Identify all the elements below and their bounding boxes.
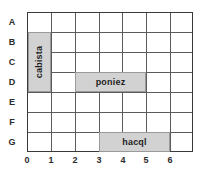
column-label-0: 0 <box>15 155 39 165</box>
region-cabista[interactable]: cabista <box>28 32 51 92</box>
grid-figure: A B C D E F G 0 1 2 3 4 5 6 cabista poni… <box>0 0 207 174</box>
region-poniez[interactable]: poniez <box>75 72 146 92</box>
row-label-g: G <box>0 137 24 147</box>
grid-line-vertical-1 <box>51 13 52 151</box>
row-label-e: E <box>0 97 24 107</box>
row-label-a: A <box>0 17 24 27</box>
column-label-2: 2 <box>63 155 87 165</box>
column-label-6: 6 <box>158 155 182 165</box>
row-label-b: B <box>0 37 24 47</box>
column-label-4: 4 <box>111 155 135 165</box>
row-label-c: C <box>0 57 24 67</box>
region-hacql-label: hacql <box>122 137 147 147</box>
grid-line-horizontal-2 <box>28 52 192 53</box>
grid-line-vertical-6 <box>170 13 171 151</box>
region-poniez-label: poniez <box>96 77 126 87</box>
grid-line-horizontal-5 <box>28 112 192 113</box>
grid-line-vertical-5 <box>146 13 147 151</box>
grid-line-horizontal-4 <box>28 92 192 93</box>
plot-area: cabista poniez hacql <box>27 12 193 152</box>
column-label-5: 5 <box>134 155 158 165</box>
region-hacql[interactable]: hacql <box>99 132 170 152</box>
row-label-f: F <box>0 117 24 127</box>
row-label-d: D <box>0 77 24 87</box>
column-label-3: 3 <box>87 155 111 165</box>
region-cabista-label: cabista <box>35 46 45 78</box>
grid-line-horizontal-1 <box>28 32 192 33</box>
column-label-1: 1 <box>39 155 63 165</box>
